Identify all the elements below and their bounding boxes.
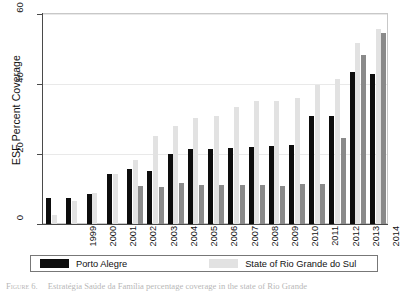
y-tick-label: 40 — [14, 66, 25, 90]
caption-label: Figure 6. — [6, 281, 38, 291]
bar-group-1999 — [43, 14, 63, 224]
bar-2009-porto-alegre — [249, 147, 254, 224]
x-tick-label-2002: 2002 — [148, 226, 158, 256]
y-tick-mark — [37, 84, 42, 85]
bar-group-2006 — [185, 14, 205, 224]
y-tick-label: 0 — [14, 206, 25, 230]
bar-2014-canoas — [361, 55, 366, 224]
bar-2003-canoas — [138, 186, 143, 224]
bar-2008-porto-alegre — [228, 148, 233, 224]
legend-label: Porto Alegre — [76, 259, 127, 269]
bar-1999-state-of-rio-grande-do-sul — [52, 215, 57, 224]
bar-group-2012 — [306, 14, 326, 224]
x-axis-line — [42, 224, 388, 225]
legend-label: State of Rio Grande do Sul — [245, 259, 356, 269]
bar-group-2005 — [164, 14, 184, 224]
x-tick-label-2008: 2008 — [270, 226, 280, 256]
x-tick-label-2000: 2000 — [108, 226, 118, 256]
bar-2011-canoas — [300, 184, 305, 224]
bar-2012-porto-alegre — [309, 116, 314, 225]
bar-group-2008 — [225, 14, 245, 224]
bar-2005-porto-alegre — [168, 154, 173, 224]
chart-legend: Porto AlegreState of Rio Grande do SulCa… — [30, 255, 378, 272]
bar-1999-porto-alegre — [46, 198, 51, 224]
bar-group-2001 — [83, 14, 103, 224]
bar-2002-porto-alegre — [107, 174, 112, 224]
y-tick-label: 20 — [14, 136, 25, 160]
bar-2014-state-of-rio-grande-do-sul — [355, 43, 360, 224]
bar-2005-canoas — [179, 183, 184, 224]
bar-2010-porto-alegre — [269, 146, 274, 224]
bar-2007-state-of-rio-grande-do-sul — [214, 116, 219, 224]
bar-2000-state-of-rio-grande-do-sul — [72, 201, 77, 224]
y-tick-mark — [37, 14, 42, 15]
bar-2006-porto-alegre — [188, 149, 193, 224]
bar-2015-porto-alegre — [370, 74, 375, 225]
plot-area — [43, 14, 387, 224]
bar-2005-state-of-rio-grande-do-sul — [173, 126, 178, 224]
bar-2012-state-of-rio-grande-do-sul — [315, 85, 320, 224]
x-tick-label-2013: 2013 — [371, 226, 381, 256]
bar-group-2009 — [245, 14, 265, 224]
figure-container: ESF Percent Coverage 0204060 19992000200… — [0, 0, 405, 292]
bar-2003-porto-alegre — [127, 169, 132, 224]
bar-group-2013 — [326, 14, 346, 224]
bar-group-2003 — [124, 14, 144, 224]
bar-2015-state-of-rio-grande-do-sul — [376, 29, 381, 224]
bar-2001-porto-alegre — [87, 194, 92, 224]
x-tick-label-2009: 2009 — [290, 226, 300, 256]
bar-2004-canoas — [159, 187, 164, 224]
bar-2013-state-of-rio-grande-do-sul — [335, 79, 340, 224]
bar-group-2002 — [104, 14, 124, 224]
bar-2013-porto-alegre — [329, 116, 334, 224]
x-tick-label-2014: 2014 — [391, 226, 401, 256]
bar-2013-canoas — [341, 138, 346, 224]
legend-entry-porto-alegre: Porto Alegre — [31, 256, 127, 271]
bar-group-2015 — [367, 14, 387, 224]
bar-2014-porto-alegre — [350, 72, 355, 224]
x-tick-label-2004: 2004 — [189, 226, 199, 256]
bar-2012-canoas — [320, 184, 325, 224]
bar-group-2007 — [205, 14, 225, 224]
bar-2011-porto-alegre — [289, 145, 294, 224]
x-tick-label-1999: 1999 — [88, 226, 98, 256]
x-tick-label-2003: 2003 — [169, 226, 179, 256]
x-tick-label-2006: 2006 — [229, 226, 239, 256]
bar-2008-canoas — [240, 185, 245, 224]
x-tick-label-2011: 2011 — [330, 226, 340, 256]
figure-caption: Figure 6.Estratégia Saúde da Família per… — [6, 281, 405, 291]
bar-2000-porto-alegre — [66, 198, 71, 224]
y-tick-label: 60 — [14, 0, 25, 20]
bar-group-2000 — [63, 14, 83, 224]
bar-2009-canoas — [260, 185, 265, 224]
bar-2006-state-of-rio-grande-do-sul — [193, 118, 198, 224]
bar-2007-porto-alegre — [208, 149, 213, 224]
bar-2015-canoas — [381, 33, 386, 224]
bar-2010-canoas — [280, 186, 285, 225]
y-axis-title: ESF Percent Coverage — [10, 25, 22, 195]
bar-group-2004 — [144, 14, 164, 224]
bar-group-2014 — [347, 14, 367, 224]
x-tick-label-2001: 2001 — [128, 226, 138, 256]
legend-entry-state-of-rio-grande-do-sul: State of Rio Grande do Sul — [200, 256, 356, 271]
bar-2004-state-of-rio-grande-do-sul — [153, 136, 158, 224]
bar-group-2010 — [266, 14, 286, 224]
x-tick-label-2007: 2007 — [250, 226, 260, 256]
bar-2002-state-of-rio-grande-do-sul — [113, 174, 118, 224]
x-tick-label-2010: 2010 — [310, 226, 320, 256]
y-tick-mark — [37, 154, 42, 155]
legend-swatch-icon — [209, 259, 238, 268]
legend-swatch-icon — [40, 259, 69, 268]
x-tick-label-2012: 2012 — [351, 226, 361, 256]
y-tick-mark — [37, 224, 42, 225]
bar-2004-porto-alegre — [147, 171, 152, 224]
bar-2008-state-of-rio-grande-do-sul — [234, 107, 239, 224]
bar-2011-state-of-rio-grande-do-sul — [295, 98, 300, 224]
bar-group-2011 — [286, 14, 306, 224]
bar-2001-state-of-rio-grande-do-sul — [92, 193, 97, 225]
bar-2009-state-of-rio-grande-do-sul — [254, 101, 259, 224]
bar-2006-canoas — [199, 185, 204, 224]
caption-text: Estratégia Saúde da Família percentage c… — [48, 281, 307, 291]
bar-2003-state-of-rio-grande-do-sul — [133, 160, 138, 224]
bar-2007-canoas — [219, 185, 224, 224]
